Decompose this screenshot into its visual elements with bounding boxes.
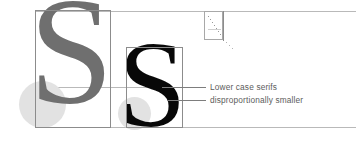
inset-detail-box xyxy=(204,11,223,40)
figure-canvas: S S Lower case serifs disproportionally … xyxy=(0,0,356,142)
inset-guide-line xyxy=(208,29,221,30)
stray-mark xyxy=(232,48,233,49)
inset-mark-dot xyxy=(208,16,209,17)
stray-mark xyxy=(229,45,230,46)
stray-mark xyxy=(226,42,227,43)
inset-mark-dot xyxy=(214,25,215,26)
inset-mark-dot xyxy=(210,19,211,20)
capital-s-bounding-box xyxy=(35,10,111,128)
inset-mark-dot xyxy=(220,34,221,35)
inset-mark-dot xyxy=(216,28,217,29)
inset-right-edge-guide xyxy=(223,11,224,41)
inset-mark-dot xyxy=(212,22,213,23)
callout-2-leader xyxy=(168,100,206,101)
callout-1-label: Lower case serifs xyxy=(210,82,277,92)
callout-2-label: disproportionally smaller xyxy=(210,95,303,105)
inset-mark-dot xyxy=(218,31,219,32)
callout-1-leader xyxy=(162,87,206,88)
